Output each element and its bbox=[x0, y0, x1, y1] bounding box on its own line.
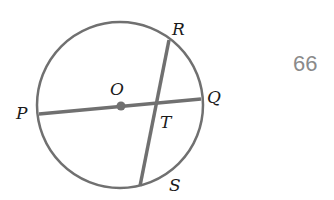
label-T: T bbox=[160, 112, 173, 132]
label-S: S bbox=[169, 175, 181, 195]
figure-number: 66 bbox=[293, 51, 317, 76]
label-O: O bbox=[110, 79, 124, 99]
label-Q: Q bbox=[207, 87, 221, 107]
center-point-O bbox=[117, 102, 126, 111]
label-R: R bbox=[171, 19, 185, 39]
circle-diagram: P Q R S O T 66 bbox=[0, 0, 334, 200]
label-P: P bbox=[15, 103, 28, 123]
